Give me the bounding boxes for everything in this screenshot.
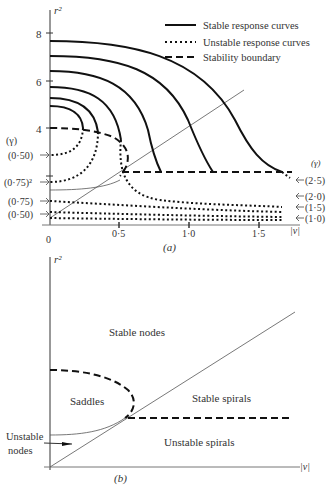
panel-b-caption: (b): [114, 472, 127, 485]
unstable-curves: [50, 128, 290, 220]
y-tick-4: 4: [36, 123, 42, 135]
y-axis-label-b: r²: [54, 253, 62, 265]
region-unstable-spirals: Unstable spirals: [164, 436, 235, 448]
y-tick-6: 6: [36, 76, 42, 88]
label-1.0: (1·0): [305, 213, 325, 225]
linear-boundary-line: [50, 90, 244, 218]
unstable-curve-0.50: [50, 128, 83, 155]
x-axis-label-b: |v|: [300, 461, 310, 472]
unstable-curve-1.0: [50, 212, 282, 217]
unstable-curve-1.5: [50, 201, 282, 212]
unstable-curve-0.75-upper: [50, 132, 98, 182]
label-2.5: (2·5): [305, 175, 325, 187]
x-tick-0: 0: [46, 234, 51, 245]
x-axis-label: |v|: [290, 225, 300, 236]
panel-a: r² |v| 8 6 4 0 0·5 1·0 1·5 Stable respon…: [4, 4, 325, 254]
legend-boundary: Stability boundary: [203, 52, 282, 63]
x-tick-1.0: 1·0: [182, 228, 195, 239]
label-0.75-squared: (0·75)²: [4, 177, 32, 189]
region-stable-spirals: Stable spirals: [192, 392, 251, 404]
gamma-header-right: (γ): [311, 158, 321, 168]
right-gamma-labels: (γ) (2·5) (2·0) (1·5) (1·0): [296, 158, 325, 225]
y-axis-label: r²: [54, 4, 62, 16]
legend-unstable: Unstable response curves: [203, 37, 310, 48]
unstable-curve-0.50-lower: [50, 218, 282, 220]
x-tick-1.5: 1·5: [252, 228, 265, 239]
stable-curve-0.50: [50, 106, 83, 128]
stable-curve-1.0: [50, 87, 121, 140]
figure-canvas: r² |v| 8 6 4 0 0·5 1·0 1·5 Stable respon…: [0, 0, 331, 489]
region-stable-nodes: Stable nodes: [109, 326, 165, 338]
label-0.50-lower: (0·50): [8, 209, 33, 221]
arrowhead-icon: [62, 442, 72, 446]
panel-b: r² |v| Stable nodes Saddles Stable spira…: [6, 253, 310, 485]
label-0.75: (0·75): [8, 196, 33, 208]
label-0.50-upper: (0·50): [8, 150, 33, 162]
stable-curve-0.75: [50, 98, 98, 132]
panel-a-caption: (a): [163, 241, 176, 254]
y-tick-8: 8: [36, 28, 42, 40]
x-tick-0.5: 0·5: [112, 228, 125, 239]
legend-stable: Stable response curves: [203, 20, 299, 31]
gamma-header-left: (γ): [6, 135, 17, 147]
region-saddles: Saddles: [70, 395, 104, 407]
right-arrow-icons: [296, 177, 304, 221]
stability-boundary-b: [50, 370, 290, 418]
region-unstable-nodes-line2: nodes: [8, 445, 33, 456]
stable-curve-2.0: [50, 56, 213, 172]
left-gamma-labels: (γ) (0·50) (0·75)² (0·75) (0·50): [4, 135, 49, 221]
region-unstable-nodes-line1: Unstable: [6, 431, 44, 442]
legend: Stable response curves Unstable response…: [165, 20, 310, 63]
left-arrow-icons: [40, 152, 49, 217]
stable-curve-1.5: [50, 71, 161, 172]
